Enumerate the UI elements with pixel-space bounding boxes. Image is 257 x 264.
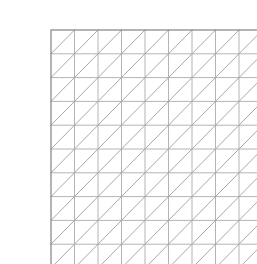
mesh-svg: Triangulated square mesh A square domain… [40,16,257,264]
triangular-mesh-figure: Triangulated square mesh A square domain… [40,16,257,264]
figure-canvas: Triangulated square mesh A square domain… [0,0,257,264]
